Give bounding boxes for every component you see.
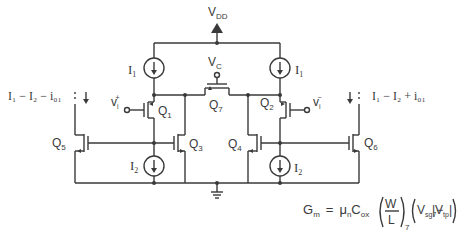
transistor-q5: Q5: [52, 118, 88, 183]
svg-text:I1: I1: [295, 62, 303, 79]
current-source-i2-left: I2: [130, 143, 164, 183]
svg-text:I₁ − I₂ − i₀₁: I₁ − I₂ − i₀₁: [8, 89, 62, 103]
svg-text:Q5: Q5: [52, 136, 66, 152]
schematic-svg: VDD I1 I1 VC Q7: [0, 0, 459, 235]
svg-text:Q7: Q7: [209, 98, 223, 114]
transistor-q3: Q3: [174, 95, 203, 183]
current-source-i2-right: I2: [270, 143, 302, 183]
output-current-right: I₁ − I₂ + i₀₁: [347, 89, 426, 118]
current-source-i1-right: I1: [270, 43, 303, 95]
svg-text:|Vtp|: |Vtp|: [432, 203, 452, 219]
svg-text:Q6: Q6: [364, 136, 378, 152]
output-current-left: I₁ − I₂ − i₀₁: [8, 89, 89, 118]
current-source-i1-left: I1: [128, 43, 164, 95]
svg-text:Q2: Q2: [260, 96, 274, 112]
transistor-q2: Q2 vi−: [260, 94, 322, 143]
svg-text:Q4: Q4: [228, 137, 242, 153]
svg-text:W: W: [385, 197, 397, 211]
vc-label: VC: [208, 55, 222, 71]
vin-minus-label: vi−: [313, 94, 322, 110]
ground-symbol: [211, 183, 223, 198]
svg-text:Q3: Q3: [189, 137, 203, 153]
transistor-q6: Q6: [349, 118, 378, 183]
vin-plus-label: vi+: [111, 94, 120, 110]
transistor-q4: Q4: [228, 95, 261, 183]
svg-text:L: L: [388, 213, 395, 227]
transistor-q7: VC Q7: [205, 55, 229, 114]
gm-equation: Gm=μnCox W L 7 Vsg7− |Vtp|: [303, 197, 456, 232]
svg-text:I2: I2: [294, 160, 302, 177]
svg-text:I1: I1: [128, 62, 136, 79]
svg-text:Q1: Q1: [158, 104, 172, 120]
svg-text:Gm=μnCox: Gm=μnCox: [303, 202, 369, 219]
circuit-diagram: VDD I1 I1 VC Q7: [0, 0, 459, 235]
svg-text:I2: I2: [130, 158, 138, 175]
svg-text:7: 7: [405, 223, 410, 232]
vdd-label: VDD: [208, 5, 228, 21]
vdd-supply: VDD: [208, 5, 228, 43]
svg-text:I₁ − I₂ + i₀₁: I₁ − I₂ + i₀₁: [372, 89, 426, 103]
transistor-q1: Q1 vi+: [111, 94, 172, 143]
